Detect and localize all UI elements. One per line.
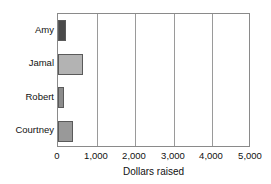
x-tick-label-0: 0 — [54, 150, 59, 162]
x-tick-label-4000: 4,000 — [199, 150, 223, 162]
bar-courtney — [58, 121, 73, 142]
y-axis-label-robert: Robert — [0, 92, 54, 102]
bars-layer — [58, 14, 249, 146]
x-tick-label-5000: 5,000 — [238, 150, 262, 162]
y-axis-category-labels: AmyJamalRobertCourtney — [0, 13, 54, 147]
x-axis-title: Dollars raised — [57, 166, 250, 178]
x-tick-label-1000: 1,000 — [84, 150, 108, 162]
y-axis-label-jamal: Jamal — [0, 58, 54, 68]
plot-area — [57, 13, 250, 147]
x-tick-label-2000: 2,000 — [122, 150, 146, 162]
y-axis-label-courtney: Courtney — [0, 125, 54, 135]
bar-amy — [58, 20, 66, 41]
bar-robert — [58, 87, 64, 108]
bar-chart-figure: AmyJamalRobertCourtney 01,0002,0003,0004… — [0, 0, 271, 184]
x-tick-label-3000: 3,000 — [161, 150, 185, 162]
bar-jamal — [58, 54, 83, 75]
y-axis-label-amy: Amy — [0, 25, 54, 35]
x-axis-tick-labels: 01,0002,0003,0004,0005,000 — [57, 150, 250, 164]
